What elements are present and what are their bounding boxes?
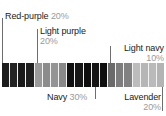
band-stripe <box>10 63 18 87</box>
callout-lavender-percent: 20% <box>143 102 161 112</box>
callout-light-purple-percent: 20% <box>40 36 58 46</box>
band-stripe <box>116 63 124 87</box>
band-stripe <box>26 63 34 87</box>
band-stripe <box>157 63 164 87</box>
callout-navy-name: Navy <box>47 92 67 102</box>
callout-light-navy-name: Light navy <box>124 43 164 53</box>
stripe-proportion-chart: Red-purple 20% Light purple 20% Light na… <box>0 0 166 116</box>
callout-red-purple-percent: 20% <box>51 11 69 21</box>
band-stripe <box>59 63 67 87</box>
band-stripe <box>18 63 26 87</box>
leader-line-light-purple <box>37 29 38 64</box>
band-stripe <box>108 63 116 87</box>
callout-red-purple: Red-purple 20% <box>5 11 69 21</box>
band-stripe <box>149 63 157 87</box>
callout-navy-percent: 30% <box>70 92 88 102</box>
band-stripe <box>133 63 141 87</box>
band-stripe <box>124 63 132 87</box>
band-stripe <box>84 63 92 87</box>
callout-navy: Navy 30% <box>47 92 87 102</box>
band-stripe <box>35 63 43 87</box>
leader-line-lavender <box>162 86 163 111</box>
band-stripe <box>92 63 100 87</box>
callout-light-navy: Light navy 10% <box>93 43 164 63</box>
band-stripe <box>141 63 149 87</box>
band-stripe <box>75 63 83 87</box>
callout-lavender: Lavender 20% <box>91 92 161 112</box>
callout-light-purple-name: Light purple <box>40 26 86 36</box>
callout-light-navy-percent: 10% <box>146 53 164 63</box>
band-stripe <box>100 63 108 87</box>
callout-red-purple-name: Red-purple <box>5 11 49 21</box>
band-stripe <box>43 63 51 87</box>
callout-lavender-name: Lavender <box>124 92 161 102</box>
band-stripe <box>2 63 10 87</box>
band-stripe <box>51 63 59 87</box>
leader-line-red-purple <box>2 18 3 64</box>
proportion-band <box>2 63 164 87</box>
band-stripe <box>67 63 75 87</box>
